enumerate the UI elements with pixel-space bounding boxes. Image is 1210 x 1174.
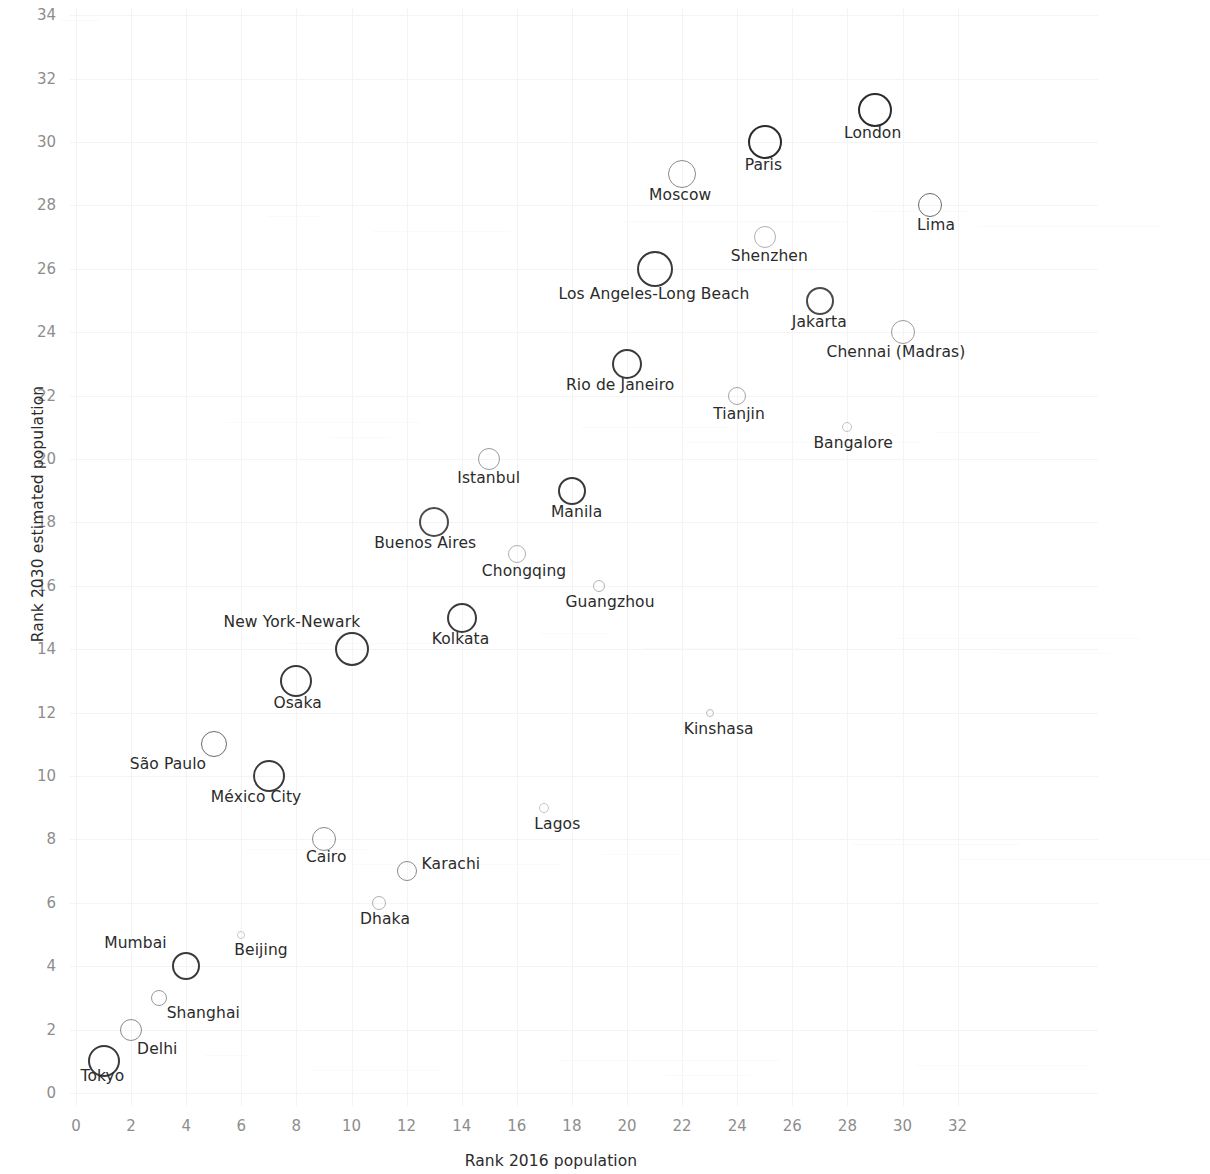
data-point-bubble[interactable] bbox=[706, 709, 714, 717]
x-tick-label: 26 bbox=[772, 1119, 812, 1134]
data-point-bubble[interactable] bbox=[172, 952, 200, 980]
y-tick-label: 2 bbox=[12, 1023, 56, 1038]
y-tick-label: 26 bbox=[12, 262, 56, 277]
scan-artifact bbox=[623, 221, 850, 222]
y-tick-label: 34 bbox=[12, 8, 56, 23]
scan-artifact bbox=[331, 437, 390, 438]
gridline-horizontal bbox=[70, 586, 1098, 587]
data-point-label: Istanbul bbox=[457, 471, 520, 487]
scan-artifact bbox=[894, 638, 1140, 639]
data-point-label: New York-Newark bbox=[224, 615, 361, 631]
y-tick-label: 0 bbox=[12, 1086, 56, 1101]
x-tick-label: 32 bbox=[938, 1119, 978, 1134]
scan-artifact bbox=[602, 854, 680, 855]
data-point-label: Rio de Janeiro bbox=[566, 378, 674, 394]
scan-artifact bbox=[226, 422, 420, 423]
x-tick-label: 10 bbox=[332, 1119, 372, 1134]
data-point-bubble[interactable] bbox=[508, 545, 526, 563]
y-tick-label: 12 bbox=[12, 706, 56, 721]
scan-artifact bbox=[560, 1060, 780, 1061]
y-tick-label: 32 bbox=[12, 72, 56, 87]
x-tick-label: 16 bbox=[497, 1119, 537, 1134]
data-point-label: Karachi bbox=[422, 857, 481, 873]
data-point-bubble[interactable] bbox=[478, 448, 500, 470]
data-point-bubble[interactable] bbox=[120, 1019, 142, 1041]
x-tick-label: 22 bbox=[662, 1119, 702, 1134]
data-point-label: Chennai (Madras) bbox=[827, 345, 966, 361]
gridline-horizontal bbox=[70, 396, 1098, 397]
data-point-label: Kolkata bbox=[432, 632, 490, 648]
gridline-horizontal bbox=[70, 1093, 1098, 1094]
data-point-label: Guangzhou bbox=[565, 595, 654, 611]
data-point-bubble[interactable] bbox=[668, 160, 696, 188]
data-point-label: Manila bbox=[551, 505, 602, 521]
data-point-label: Buenos Aires bbox=[374, 536, 476, 552]
scan-artifact bbox=[915, 1065, 1090, 1066]
data-point-label: Los Angeles-Long Beach bbox=[559, 287, 750, 303]
data-point-bubble[interactable] bbox=[539, 803, 549, 813]
data-point-bubble[interactable] bbox=[858, 93, 892, 127]
data-point-bubble[interactable] bbox=[918, 193, 942, 217]
data-point-bubble[interactable] bbox=[397, 861, 417, 881]
gridline-vertical bbox=[76, 8, 77, 1106]
data-point-bubble[interactable] bbox=[151, 990, 167, 1006]
gridline-vertical bbox=[903, 8, 904, 1106]
data-point-label: Moscow bbox=[649, 188, 711, 204]
x-tick-label: 18 bbox=[552, 1119, 592, 1134]
data-point-bubble[interactable] bbox=[237, 931, 245, 939]
scan-artifact bbox=[999, 653, 1110, 654]
gridline-horizontal bbox=[70, 15, 1098, 16]
data-point-bubble[interactable] bbox=[419, 507, 449, 537]
data-point-label: São Paulo bbox=[130, 757, 206, 773]
data-point-bubble[interactable] bbox=[842, 422, 852, 432]
gridline-vertical bbox=[627, 8, 628, 1106]
gridline-horizontal bbox=[70, 713, 1098, 714]
x-tick-label: 8 bbox=[276, 1119, 316, 1134]
data-point-bubble[interactable] bbox=[637, 251, 673, 287]
gridline-horizontal bbox=[70, 522, 1098, 523]
gridline-horizontal bbox=[70, 649, 1098, 650]
data-point-bubble[interactable] bbox=[335, 632, 369, 666]
gridline-horizontal bbox=[70, 205, 1098, 206]
data-point-bubble[interactable] bbox=[806, 287, 834, 315]
data-point-bubble[interactable] bbox=[280, 665, 312, 697]
gridline-horizontal bbox=[70, 903, 1098, 904]
y-tick-label: 28 bbox=[12, 198, 56, 213]
data-point-bubble[interactable] bbox=[593, 580, 605, 592]
y-tick-label: 24 bbox=[12, 325, 56, 340]
y-tick-label: 4 bbox=[12, 959, 56, 974]
scan-artifact bbox=[936, 432, 1040, 433]
y-tick-label: 8 bbox=[12, 832, 56, 847]
gridline-horizontal bbox=[70, 1030, 1098, 1031]
data-point-label: London bbox=[844, 126, 901, 142]
data-point-label: México City bbox=[211, 790, 302, 806]
data-point-label: Mumbai bbox=[104, 936, 167, 952]
gridline-vertical bbox=[572, 8, 573, 1106]
data-point-label: Delhi bbox=[137, 1042, 177, 1058]
data-point-label: Beijing bbox=[234, 943, 287, 959]
scan-artifact bbox=[60, 20, 100, 21]
scan-artifact bbox=[268, 216, 320, 217]
y-tick-label: 30 bbox=[12, 135, 56, 150]
gridline-horizontal bbox=[70, 966, 1098, 967]
x-tick-label: 20 bbox=[607, 1119, 647, 1134]
gridline-horizontal bbox=[70, 142, 1098, 143]
gridline-horizontal bbox=[70, 459, 1098, 460]
scan-artifact bbox=[852, 844, 1020, 845]
data-point-label: Tianjin bbox=[713, 407, 765, 423]
data-point-bubble[interactable] bbox=[372, 896, 386, 910]
data-point-bubble[interactable] bbox=[754, 226, 776, 248]
data-point-bubble[interactable] bbox=[748, 125, 782, 159]
data-point-bubble[interactable] bbox=[728, 387, 746, 405]
data-point-bubble[interactable] bbox=[558, 477, 586, 505]
data-point-bubble[interactable] bbox=[201, 731, 227, 757]
data-point-bubble[interactable] bbox=[612, 349, 642, 379]
x-tick-label: 0 bbox=[56, 1119, 96, 1134]
gridline-vertical bbox=[296, 8, 297, 1106]
gridline-horizontal bbox=[70, 776, 1098, 777]
gridline-vertical bbox=[352, 8, 353, 1106]
data-point-bubble[interactable] bbox=[447, 603, 477, 633]
data-point-bubble[interactable] bbox=[891, 320, 915, 344]
scan-artifact bbox=[373, 231, 510, 232]
